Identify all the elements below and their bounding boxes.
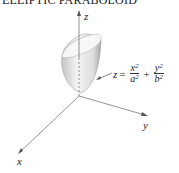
x-axis-arrow-icon bbox=[18, 148, 23, 154]
fraction-x-over-a: x2 a2 bbox=[130, 63, 140, 84]
y-axis-arrow-icon bbox=[141, 112, 148, 116]
x-axis-label: x bbox=[17, 155, 22, 167]
y-axis bbox=[79, 96, 145, 115]
pointer-arrow-icon bbox=[96, 76, 101, 80]
z-axis-label: z bbox=[84, 10, 88, 22]
paraboloid-diagram bbox=[0, 0, 179, 173]
fraction-y-over-b: y2 b2 bbox=[154, 63, 164, 84]
z-axis-arrow-icon bbox=[77, 10, 81, 16]
equation-equals: = bbox=[119, 68, 125, 80]
equation-lhs: z bbox=[113, 68, 117, 80]
x-axis bbox=[20, 96, 79, 152]
equation-plus: + bbox=[143, 68, 149, 80]
equation: z = x2 a2 + y2 b2 bbox=[113, 63, 166, 84]
y-axis-label: y bbox=[143, 119, 148, 131]
